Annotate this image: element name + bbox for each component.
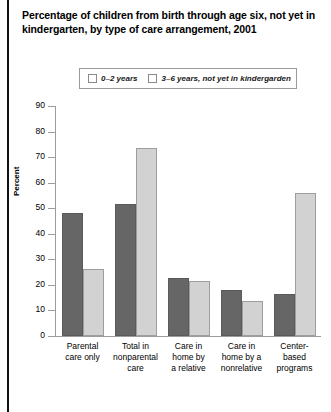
bar-series-container [56,106,321,336]
bar [274,294,295,336]
bar [295,193,316,336]
x-axis-label: Care inhome bya relative [162,341,215,374]
x-axis-label: Total innonparentalcare [109,341,162,374]
bar-group [215,106,268,336]
y-axis-tick-label: 0 [40,330,45,340]
y-axis-tick: 60 [48,183,55,184]
bar-group [56,106,109,336]
y-axis-tick: 90 [48,106,55,107]
y-axis-tick: 70 [48,157,55,158]
y-axis-tick-label: 10 [36,304,45,314]
x-axis-label: Center-basedprograms [268,341,321,374]
bar [189,281,210,336]
y-axis-tick: 10 [48,310,55,311]
y-axis-tick: 40 [48,234,55,235]
y-axis-tick-label: 20 [36,279,45,289]
chart-page: Percentage of children from birth throug… [0,0,331,412]
bar-group [109,106,162,336]
y-axis-title: Percent [12,167,21,196]
bar-group [268,106,321,336]
y-axis-tick: 80 [48,132,55,133]
bar [62,213,83,336]
y-axis-tick-label: 70 [36,151,45,161]
bar [242,301,263,336]
y-axis-tick-label: 60 [36,177,45,187]
bar [168,278,189,336]
bar [115,204,136,336]
plot-area: Percent 0102030405060708090 Parentalcare… [0,0,331,412]
y-axis-tick-label: 80 [36,126,45,136]
y-axis-tick-label: 90 [36,100,45,110]
y-axis-tick-label: 40 [36,228,45,238]
bar [221,290,242,336]
x-axis-labels: Parentalcare onlyTotal innonparentalcare… [56,341,321,374]
y-axis-tick: 30 [48,259,55,260]
bar [83,269,104,336]
y-axis-tick: 20 [48,285,55,286]
x-axis-line [55,336,321,337]
bar [136,148,157,336]
x-axis-label: Care inhome by anonrelative [215,341,268,374]
y-axis-tick: 0 [48,336,55,337]
x-axis-label: Parentalcare only [56,341,109,374]
y-axis-tick-label: 50 [36,202,45,212]
y-axis-tick: 50 [48,208,55,209]
bar-group [162,106,215,336]
y-axis-tick-label: 30 [36,253,45,263]
